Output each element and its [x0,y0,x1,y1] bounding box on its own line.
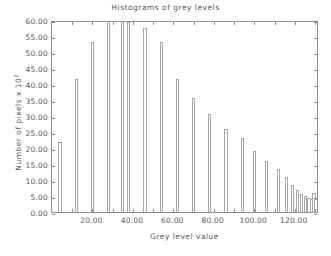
y-axis-tick [314,134,317,135]
y-axis-tick [314,102,317,103]
y-axis-tick [314,166,317,167]
histogram-bar [58,142,61,212]
y-axis-tick [52,54,55,55]
histogram-bar [208,114,211,212]
x-axis-tick [113,22,114,25]
y-axis-tick [314,182,317,183]
x-axis-tick-label: 40.00 [121,216,143,225]
histogram-bar [107,22,110,212]
y-axis-tick-label: 15.00 [4,161,48,170]
histogram-bar [91,42,94,212]
x-axis-tick [315,209,316,212]
histogram-bar [224,129,227,212]
y-axis-tick-label: 20.00 [4,145,48,154]
x-axis-tick [92,22,93,25]
histogram-bar [121,22,124,212]
y-axis-tick [52,150,55,151]
y-axis-title: Number of pixels x 102 [13,42,24,202]
x-axis-tick [133,22,134,25]
y-axis-tick [314,214,317,215]
y-axis-tick [314,198,317,199]
histogram-bar [300,194,303,212]
x-axis-tick [275,209,276,212]
x-axis-tick [173,209,174,212]
x-axis-tick [234,22,235,25]
y-axis-tick [52,182,55,183]
histogram-bar [75,79,78,212]
x-axis-title: Grey level value [51,232,318,241]
y-axis-tick [52,70,55,71]
histogram-figure: Histograms of grey levels 0.005.0010.001… [0,0,331,256]
y-axis-tick [314,54,317,55]
bars-layer [52,22,317,212]
x-axis-tick [133,209,134,212]
histogram-bar [253,151,256,212]
y-axis-tick [52,86,55,87]
y-axis-title-text: Number of pixels x 10 [14,78,23,171]
histogram-bar [143,28,146,212]
x-axis-tick [275,22,276,25]
y-axis-tick-label: 30.00 [4,113,48,122]
histogram-bar [285,177,288,212]
y-axis-tick [52,102,55,103]
y-axis-tick-label: 55.00 [4,33,48,42]
y-axis-tick [52,118,55,119]
y-axis-title-exponent: 2 [13,74,19,78]
x-axis-tick [214,209,215,212]
x-axis-tick [194,209,195,212]
x-axis-tick [173,22,174,25]
histogram-bar [296,190,299,212]
x-axis-tick [194,22,195,25]
y-axis-tick [52,214,55,215]
y-axis-tick [52,22,55,23]
x-axis-tick [254,22,255,25]
x-axis-tick [254,209,255,212]
histogram-bar [277,169,280,212]
x-axis-tick-label: 100.00 [240,216,267,225]
x-axis-tick-label: 60.00 [161,216,183,225]
y-axis-tick-label: 10.00 [4,177,48,186]
x-axis-tick [295,22,296,25]
x-axis-tick [72,22,73,25]
x-axis-tick [153,22,154,25]
x-axis-tick [72,209,73,212]
y-axis-tick [314,86,317,87]
histogram-bar [291,185,294,212]
y-axis-tick-label: 5.00 [4,193,48,202]
y-axis-tick-label: 60.00 [4,17,48,26]
x-axis-tick [315,22,316,25]
y-axis-tick [52,198,55,199]
histogram-bar [160,42,163,212]
histogram-bar [176,79,179,212]
x-axis-tick [234,209,235,212]
x-axis-tick-label: 120.00 [280,216,307,225]
x-axis-tick [295,209,296,212]
histogram-bar [241,138,244,212]
y-axis-tick [314,150,317,151]
y-axis-tick-label: 50.00 [4,49,48,58]
x-axis-tick [113,209,114,212]
y-axis-tick [314,38,317,39]
y-axis-tick [52,166,55,167]
y-axis-tick [52,134,55,135]
x-axis-tick-label: 80.00 [202,216,224,225]
histogram-bar [192,98,195,212]
y-axis-tick-label: 45.00 [4,65,48,74]
y-axis-tick [314,118,317,119]
plot-area [51,21,318,213]
x-axis-tick [92,209,93,212]
y-axis-tick-label: 40.00 [4,81,48,90]
histogram-bar [127,22,130,212]
x-axis-tick [153,209,154,212]
y-axis-tick-label: 25.00 [4,129,48,138]
chart-title: Histograms of grey levels [0,3,331,12]
y-axis-tick [314,70,317,71]
histogram-bar [265,161,268,212]
y-axis-tick-label: 0.00 [4,209,48,218]
y-axis-tick-label: 35.00 [4,97,48,106]
y-axis-tick [52,38,55,39]
x-axis-tick-label: 20.00 [80,216,102,225]
x-axis-tick [214,22,215,25]
